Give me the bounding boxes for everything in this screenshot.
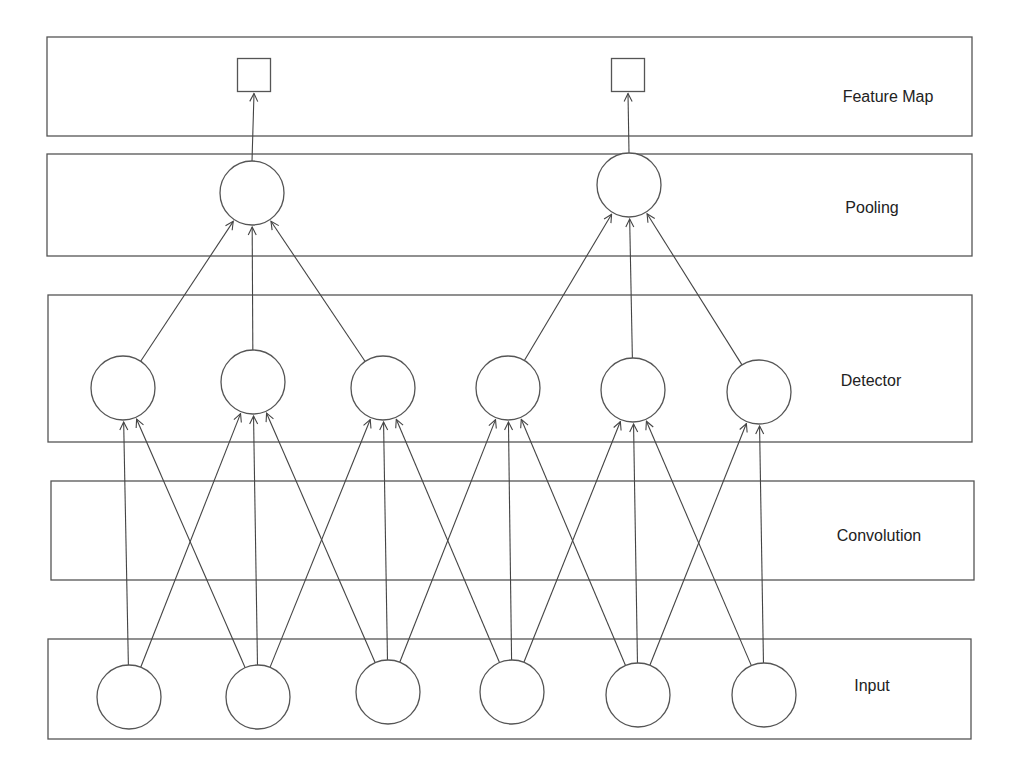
feature-map-layer-box bbox=[47, 37, 972, 136]
cnn-layer-diagram: Feature Map Pooling Detector Convolution… bbox=[0, 0, 1017, 774]
detector-node bbox=[351, 356, 415, 420]
detector-node bbox=[221, 350, 285, 414]
pooling-node bbox=[220, 161, 284, 225]
convolution-label: Convolution bbox=[837, 527, 922, 544]
pooling-layer-box bbox=[47, 154, 972, 256]
detector-node bbox=[601, 358, 665, 422]
input-node bbox=[356, 660, 420, 724]
detector-node bbox=[91, 356, 155, 420]
feature-map-node bbox=[612, 59, 645, 92]
input-node bbox=[480, 660, 544, 724]
detector-label: Detector bbox=[841, 372, 902, 389]
pooling-label: Pooling bbox=[845, 199, 898, 216]
input-node bbox=[97, 665, 161, 729]
input-label: Input bbox=[854, 677, 890, 694]
detector-node bbox=[727, 360, 791, 424]
input-node bbox=[226, 665, 290, 729]
convolution-layer-box bbox=[51, 481, 974, 580]
feature-map-node bbox=[238, 59, 271, 92]
input-node bbox=[732, 663, 796, 727]
feature-map-label: Feature Map bbox=[843, 88, 934, 105]
edge-detector-to-pooling bbox=[252, 227, 253, 350]
pooling-node bbox=[597, 153, 661, 217]
input-node bbox=[606, 663, 670, 727]
detector-node bbox=[476, 356, 540, 420]
